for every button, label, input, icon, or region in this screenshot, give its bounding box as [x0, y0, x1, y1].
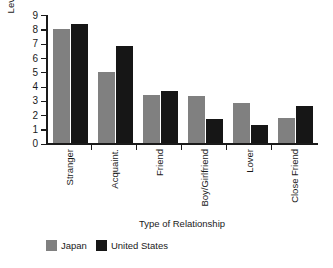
bar-japan — [233, 103, 250, 143]
bar-group — [93, 15, 138, 143]
bar-group — [183, 15, 228, 143]
y-tick-label: 7 — [32, 39, 38, 49]
y-tick: 4 — [41, 87, 46, 88]
bar-group — [228, 15, 273, 143]
bar-group — [138, 15, 183, 143]
y-tick: 1 — [41, 129, 46, 130]
bar-chart: Level of Intimacy 9 8 7 6 5 4 3 2 1 0 — [0, 0, 333, 268]
y-tick-label: 2 — [32, 111, 38, 121]
x-category: Boy/Girlfriend — [183, 149, 228, 215]
x-category: Stranger — [48, 149, 93, 215]
legend-item-japan: Japan — [46, 240, 87, 251]
y-tick: 9 — [41, 15, 46, 16]
x-category: Acquaint. — [93, 149, 138, 215]
y-tick-label: 8 — [32, 25, 38, 35]
bar-united-states — [116, 46, 133, 143]
x-category: Friend — [138, 149, 183, 215]
legend-item-united-states: United States — [96, 240, 168, 251]
y-tick: 3 — [41, 101, 46, 102]
y-tick-label: 0 — [32, 139, 38, 149]
y-tick: 5 — [41, 72, 46, 73]
plot-area: 9 8 7 6 5 4 3 2 1 0 — [46, 15, 318, 145]
x-category-label: Close Friend — [290, 149, 300, 203]
x-category-label: Lover — [245, 149, 255, 173]
bar-group — [273, 15, 318, 143]
y-axis-title: Level of Intimacy — [4, 0, 18, 36]
bar-japan — [188, 96, 205, 143]
y-tick-label: 5 — [32, 68, 38, 78]
bar-japan — [53, 29, 70, 143]
y-tick-label: 9 — [32, 11, 38, 21]
y-tick: 8 — [41, 29, 46, 30]
bar-japan — [98, 72, 115, 143]
x-axis-category-labels: Stranger Acquaint. Friend Boy/Girlfriend… — [48, 149, 318, 215]
y-tick-label: 4 — [32, 82, 38, 92]
x-category: Lover — [228, 149, 273, 215]
x-category-label: Acquaint. — [110, 149, 120, 189]
y-tick-label: 3 — [32, 96, 38, 106]
y-tick: 0 — [41, 144, 46, 145]
y-tick-label: 1 — [32, 125, 38, 135]
legend-label: United States — [111, 240, 168, 251]
y-tick: 7 — [41, 44, 46, 45]
y-tick: 6 — [41, 58, 46, 59]
bar-united-states — [296, 106, 313, 143]
y-tick-label: 6 — [32, 54, 38, 64]
bar-united-states — [161, 91, 178, 144]
bar-united-states — [71, 24, 88, 144]
bar-japan — [278, 118, 295, 144]
legend-label: Japan — [61, 240, 87, 251]
bar-groups — [48, 15, 318, 143]
chart-legend: Japan United States — [46, 240, 318, 251]
y-tick: 2 — [41, 115, 46, 116]
bar-japan — [143, 95, 160, 144]
x-axis-title: Type of Relationship — [46, 218, 318, 229]
bar-united-states — [206, 119, 223, 143]
legend-swatch-icon — [46, 240, 57, 251]
legend-swatch-icon — [96, 240, 107, 251]
x-category-label: Friend — [155, 149, 165, 176]
bar-group — [48, 15, 93, 143]
x-category: Close Friend — [273, 149, 318, 215]
x-category-label: Boy/Girlfriend — [200, 149, 210, 207]
bar-united-states — [251, 125, 268, 144]
x-category-label: Stranger — [65, 149, 75, 185]
